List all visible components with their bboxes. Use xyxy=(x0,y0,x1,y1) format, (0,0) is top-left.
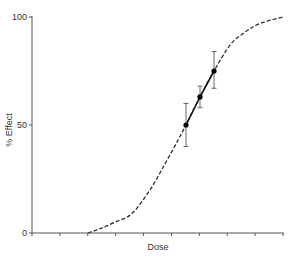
y-axis: 100 50 0 % Effect xyxy=(4,12,32,238)
y-tick-0: 0 xyxy=(22,228,27,238)
x-axis: Dose xyxy=(32,233,284,252)
data-point-marker xyxy=(211,68,216,73)
y-axis-label: % Effect xyxy=(4,113,14,147)
measured-points xyxy=(183,52,216,147)
x-axis-label: Dose xyxy=(147,242,168,252)
y-tick-100: 100 xyxy=(12,12,27,22)
y-tick-50: 50 xyxy=(17,120,27,130)
plot-area xyxy=(88,17,283,233)
dose-response-chart: 100 50 0 % Effect Dose xyxy=(0,0,295,259)
data-point-marker xyxy=(183,122,188,127)
data-point-marker xyxy=(197,94,202,99)
